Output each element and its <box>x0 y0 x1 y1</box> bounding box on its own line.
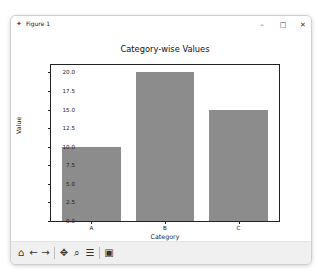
maximize-button[interactable]: □ <box>276 19 290 31</box>
x-tick <box>239 221 240 224</box>
zoom-magnifier-icon[interactable]: ⌕ <box>71 246 83 260</box>
y-tick <box>48 202 51 203</box>
y-tick <box>48 165 51 166</box>
y-tick-label: 7.5 <box>66 162 75 168</box>
y-tick-label: 0.0 <box>66 218 75 224</box>
y-tick <box>48 184 51 185</box>
y-tick <box>48 91 51 92</box>
forward-arrow-icon[interactable]: → <box>40 246 51 260</box>
figure-window: ✦ Figure 1 – □ ✕ Category-wise Values Va… <box>10 15 312 265</box>
y-tick <box>48 110 51 111</box>
x-tick-label: A <box>90 225 94 231</box>
toolbar-separator <box>54 247 55 259</box>
pan-move-icon[interactable]: ✥ <box>58 246 70 260</box>
y-tick <box>48 221 51 222</box>
matplotlib-figure-icon: ✦ <box>16 20 24 28</box>
y-tick <box>48 72 51 73</box>
bar-b <box>136 72 195 221</box>
bar-c <box>209 110 268 221</box>
y-tick-label: 5.0 <box>66 181 75 187</box>
y-tick-label: 12.5 <box>63 125 75 131</box>
y-tick-label: 17.5 <box>63 88 75 94</box>
y-tick <box>48 128 51 129</box>
figure-canvas[interactable]: Category-wise Values Value 0.02.55.07.51… <box>11 34 311 242</box>
title-bar[interactable]: ✦ Figure 1 – □ ✕ <box>11 16 311 34</box>
window-title: Figure 1 <box>26 20 50 27</box>
y-tick-label: 15.0 <box>63 107 75 113</box>
y-tick <box>48 147 51 148</box>
configure-subplots-icon[interactable]: ☰ <box>84 246 96 260</box>
x-tick <box>165 221 166 224</box>
x-axis-label: Category <box>50 233 280 240</box>
navigation-toolbar: ⌂ ← → ✥ ⌕ ☰ ▣ <box>11 241 311 264</box>
close-button[interactable]: ✕ <box>296 19 310 31</box>
save-floppy-icon[interactable]: ▣ <box>103 246 115 260</box>
y-tick-label: 20.0 <box>63 69 75 75</box>
x-tick <box>91 221 92 224</box>
x-tick-label: B <box>163 225 167 231</box>
home-icon[interactable]: ⌂ <box>15 246 27 260</box>
back-arrow-icon[interactable]: ← <box>28 246 39 260</box>
x-tick-label: C <box>237 225 241 231</box>
y-axis-label: Value <box>15 117 22 134</box>
plot-axes <box>50 64 280 222</box>
toolbar-separator <box>99 247 100 259</box>
y-tick-label: 2.5 <box>66 199 75 205</box>
minimize-button[interactable]: – <box>255 19 269 31</box>
chart-title: Category-wise Values <box>50 44 280 54</box>
y-tick-label: 10.0 <box>63 144 75 150</box>
